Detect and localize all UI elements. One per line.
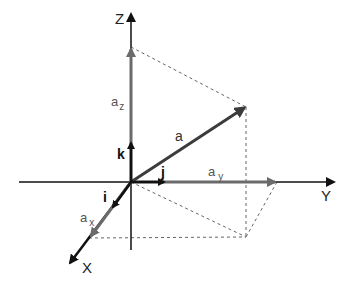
label-a: a — [175, 128, 183, 144]
axis-label-y: Y — [321, 187, 331, 204]
component-vectors — [91, 49, 275, 236]
unit-vector-i — [113, 182, 131, 207]
label-ay: ay — [208, 164, 223, 182]
label-ax: ax — [80, 210, 94, 228]
label-j: j — [160, 164, 165, 180]
axis-label-x: X — [82, 259, 92, 276]
label-az: az — [111, 94, 124, 112]
axis-label-z: Z — [115, 10, 124, 27]
vector-diagram: Z Y X k j i a az ay ax — [0, 0, 351, 286]
label-k: k — [117, 146, 125, 162]
dashed-projection-lines — [89, 47, 277, 238]
vector-a — [131, 108, 244, 182]
label-i: i — [103, 189, 107, 205]
